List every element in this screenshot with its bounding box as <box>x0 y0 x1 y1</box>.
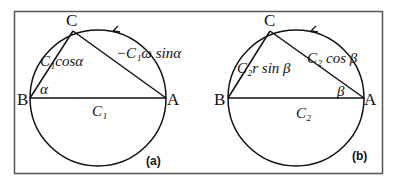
diagram-canvas: C B A C₁cosα −C₁ω sinα C₁ α (a) C B A C₂… <box>0 0 394 183</box>
point-b-b: B <box>214 90 225 109</box>
arrow-icon <box>311 26 318 32</box>
arrow-icon <box>113 26 120 32</box>
label-bc-b: C₂r sin β <box>237 60 291 76</box>
point-b-a: B <box>17 90 28 109</box>
chord-ca-a <box>73 31 166 98</box>
label-ba-b: C₂ <box>296 105 311 121</box>
point-a-a: A <box>167 90 180 109</box>
label-bc-a: C₁cosα <box>40 53 84 69</box>
panel-tag-a: (a) <box>146 154 161 168</box>
label-angle-b: β <box>336 83 345 99</box>
panel-b: C B A C₂r sin β C₂ cos β C₂ β (b) <box>214 11 377 166</box>
point-a-b: A <box>364 90 377 109</box>
label-ca-a: −C₁ω sinα <box>116 45 182 61</box>
label-angle-a: α <box>40 81 49 97</box>
label-ca-b: C₂ cos β <box>307 50 358 66</box>
point-c-a: C <box>66 11 77 30</box>
point-c-b: C <box>264 11 275 30</box>
panel-a: C B A C₁cosα −C₁ω sinα C₁ α (a) <box>17 11 182 168</box>
label-ba-a: C₁ <box>92 103 107 119</box>
panel-tag-b: (b) <box>352 149 367 163</box>
